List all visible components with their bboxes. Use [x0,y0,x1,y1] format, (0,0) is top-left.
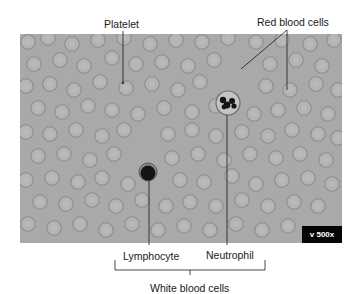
rbc-center [109,55,115,61]
rbc-center [103,227,109,233]
rbc-center [297,151,303,157]
rbc-center [239,129,245,135]
rbc-center [31,61,37,67]
rbc-center [259,227,265,233]
rbc-center [155,227,161,233]
rbc-center [199,39,205,45]
rbc-center [125,181,131,187]
rbc-center [279,177,285,183]
rbc-center [187,199,193,205]
rbc-center [189,127,195,133]
platelet-label: Platelet [104,19,139,30]
rbc-center [51,225,57,231]
rbc-center [97,79,103,85]
rbc-center [185,63,191,69]
rbc-center [301,105,307,111]
rbc-center [265,203,271,209]
rbc-center [139,197,145,203]
rbc-center [263,83,269,89]
rbc-center [229,173,235,179]
rbc-center [47,131,53,137]
rbc-center [71,87,77,93]
rbc-center [173,37,179,43]
rbc-center [207,227,213,233]
neutrophil-nucleus-lobe [222,105,227,110]
rbc-center [331,37,337,43]
cell-field [20,34,342,243]
rbc-center [77,221,83,227]
rbc-center [325,111,331,117]
rbc-center [195,151,201,157]
magnification-badge: v 500x [302,226,342,243]
rbc-center [323,157,329,163]
rbc-center [95,37,101,43]
rbc-center [35,153,41,159]
rbc-center [123,85,129,91]
neutrophil-nucleus-lobe [229,98,235,104]
rbc-center [87,157,93,163]
white-blood-cells-label: White blood cells [150,283,229,294]
rbc-center [315,131,321,137]
rbc-center [319,63,325,69]
rbc-center [197,79,203,85]
rbc-center [81,63,87,69]
rbc-center [23,177,29,183]
rbc-center [225,35,231,41]
rbc-center [73,127,79,133]
rbc-center [213,203,219,209]
rbc-center [25,221,31,227]
rbc-center [285,223,291,229]
rbc-center [265,133,271,139]
rbc-center [275,107,281,113]
rbc-center [247,151,253,157]
rbc-center [149,81,155,87]
rbc-center [69,41,75,47]
rbc-center [99,175,105,181]
rbc-center [329,181,335,187]
rbc-center [253,39,259,45]
rbc-center [99,133,105,139]
rbc-center [85,103,91,109]
rbc-center [59,109,65,115]
rbc-center [61,151,67,157]
platelet [122,82,125,85]
rbc-center [175,87,181,93]
rbc-center [25,39,31,45]
rbc-center [289,127,295,133]
rbc-center [253,181,259,187]
rbc-center [121,35,127,41]
lymphocyte-nucleus [141,166,156,181]
rbc-center [75,179,81,185]
rbc-center [293,57,299,63]
rbc-center [267,61,273,67]
rbc-center [23,83,29,89]
rbc-center [189,109,195,115]
lymphocyte-label: Lymphocyte [123,251,179,262]
rbc-center [129,221,135,227]
neutrophil-label: Neutrophil [206,250,254,261]
rbc-center [305,175,311,181]
rbc-center [213,133,219,139]
rbc-center [45,35,51,41]
rbc-center [211,57,217,63]
rbc-center [163,203,169,209]
rbc-center [135,111,141,117]
rbc-center [113,203,119,209]
neutrophil-nucleus-lobe [231,103,236,108]
rbc-center [89,197,95,203]
rbc-center [109,107,115,113]
rbc-center [335,135,341,141]
rbc-center [161,105,167,111]
rbc-center [291,199,297,205]
rbc-center [315,203,321,209]
rbc-center [201,179,207,185]
rbc-center [307,41,313,47]
rbc-center [335,87,341,93]
rbc-center [49,175,55,181]
rbc-center [121,127,127,133]
rbc-center [221,157,227,163]
rbc-center [279,37,285,43]
rbc-center [147,41,153,47]
rbc-center [23,129,29,135]
rbc-center [35,105,41,111]
